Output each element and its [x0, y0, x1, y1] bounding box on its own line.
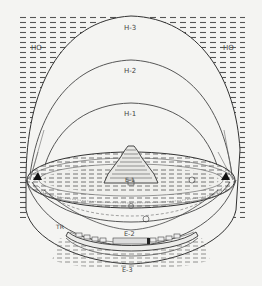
label-h1: H-1 — [124, 110, 136, 118]
label-h3: H-3 — [124, 24, 136, 32]
label-tr: TR — [55, 223, 64, 230]
cosmology-diagram: H-3 H-2 H-1 HO HO E-1 E-2 E-3 TR — [0, 0, 262, 286]
label-e1: E-1 — [125, 176, 135, 183]
label-ho-right: HO — [223, 44, 234, 52]
label-e3: E-3 — [122, 266, 133, 274]
label-e2: E-2 — [124, 230, 135, 238]
label-ho-left: HO — [31, 44, 42, 52]
label-h2: H-2 — [124, 67, 136, 75]
